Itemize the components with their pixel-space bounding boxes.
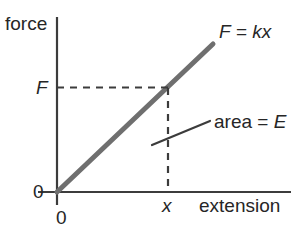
y-axis-origin-label: 0 bbox=[33, 182, 44, 201]
area-leader-line bbox=[152, 121, 210, 145]
equation-operator: = bbox=[231, 21, 253, 42]
force-value-label: F bbox=[36, 78, 48, 97]
x-axis-label: extension bbox=[199, 196, 280, 215]
equation-force-symbol: F bbox=[219, 21, 231, 42]
force-extension-diagram: force extension F x 0 0 F = kx area = E bbox=[0, 0, 304, 240]
extension-value-label: x bbox=[162, 196, 172, 215]
x-axis-origin-label: 0 bbox=[56, 208, 67, 227]
y-axis-label: force bbox=[5, 14, 47, 33]
force-extension-line bbox=[57, 44, 213, 192]
equation-spring-term: kx bbox=[252, 21, 271, 42]
area-energy-label: area = E bbox=[214, 112, 286, 131]
line-equation-label: F = kx bbox=[219, 22, 271, 41]
energy-symbol: E bbox=[274, 111, 287, 132]
area-operator: = bbox=[252, 111, 274, 132]
area-word: area bbox=[214, 111, 252, 132]
